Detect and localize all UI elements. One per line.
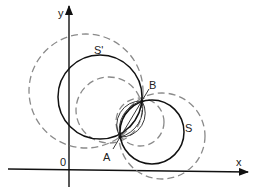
x-axis-label: x — [236, 156, 242, 168]
circle-s-prime — [58, 55, 142, 139]
x-axis — [8, 169, 248, 172]
origin-label: 0 — [60, 156, 66, 168]
label-b: B — [149, 79, 156, 91]
circle-s — [120, 100, 184, 164]
point-b — [140, 99, 143, 102]
y-axis-label: y — [58, 7, 64, 19]
dashed-circle-small-left — [76, 77, 142, 143]
label-a: A — [103, 151, 111, 163]
circle-diagram: y x 0 S' S A B — [0, 0, 261, 194]
label-s-prime: S' — [94, 44, 103, 56]
point-a — [118, 135, 121, 138]
label-s: S — [185, 122, 192, 134]
radical-axis-line — [113, 89, 149, 149]
